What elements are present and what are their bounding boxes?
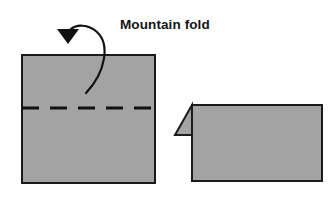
fold-direction-arrow-head-icon xyxy=(57,29,79,44)
unfolded-square-sheet xyxy=(22,55,155,183)
mountain-fold-title: Mountain fold xyxy=(120,18,210,32)
folded-flap-triangle xyxy=(175,105,192,135)
folded-sheet-rectangle xyxy=(192,105,322,181)
